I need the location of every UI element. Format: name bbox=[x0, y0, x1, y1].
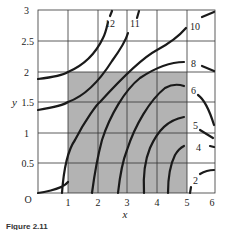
svg-text:2: 2 bbox=[96, 197, 101, 208]
svg-text:2: 2 bbox=[24, 67, 29, 78]
svg-text:4: 4 bbox=[196, 142, 201, 153]
x-tick-labels: 1 2 3 4 5 6 bbox=[66, 197, 215, 208]
svg-text:3: 3 bbox=[125, 197, 130, 208]
svg-text:12: 12 bbox=[105, 18, 115, 29]
x-axis-label: x bbox=[122, 208, 128, 220]
svg-text:2: 2 bbox=[193, 175, 198, 186]
y-tick-labels: 3 2.5 2 1.5 1 0.5 bbox=[22, 5, 35, 169]
contour-2-tick bbox=[190, 187, 191, 193]
svg-text:2.5: 2.5 bbox=[22, 36, 35, 47]
svg-text:1: 1 bbox=[66, 197, 71, 208]
svg-text:5: 5 bbox=[193, 120, 198, 131]
contour-12-top bbox=[110, 11, 112, 16]
svg-text:5: 5 bbox=[185, 197, 190, 208]
svg-text:11: 11 bbox=[130, 18, 140, 29]
svg-text:1.5: 1.5 bbox=[22, 97, 35, 108]
contour-chart: 12 11 10 8 6 5 4 2 3 2.5 2 1.5 1 0.5 y O… bbox=[0, 0, 228, 230]
contour-5-right bbox=[200, 130, 213, 138]
figure-caption: Figure 2.11 bbox=[6, 222, 48, 230]
contour-2 bbox=[200, 170, 214, 174]
contour-10-right bbox=[202, 12, 214, 17]
svg-text:0.5: 0.5 bbox=[22, 158, 35, 169]
contour-11-top bbox=[137, 11, 139, 18]
svg-text:8: 8 bbox=[191, 58, 196, 69]
y-axis-label: y bbox=[11, 96, 17, 108]
svg-text:3: 3 bbox=[24, 5, 29, 16]
svg-text:4: 4 bbox=[155, 197, 160, 208]
contour-6-right bbox=[198, 95, 214, 125]
contour-12 bbox=[38, 22, 108, 79]
origin-label: O bbox=[24, 194, 31, 205]
contour-4-right bbox=[210, 146, 214, 147]
svg-text:10: 10 bbox=[190, 21, 200, 32]
svg-text:1: 1 bbox=[24, 128, 29, 139]
contour-8-right bbox=[202, 66, 214, 71]
svg-text:6: 6 bbox=[210, 197, 215, 208]
svg-text:6: 6 bbox=[191, 85, 196, 96]
